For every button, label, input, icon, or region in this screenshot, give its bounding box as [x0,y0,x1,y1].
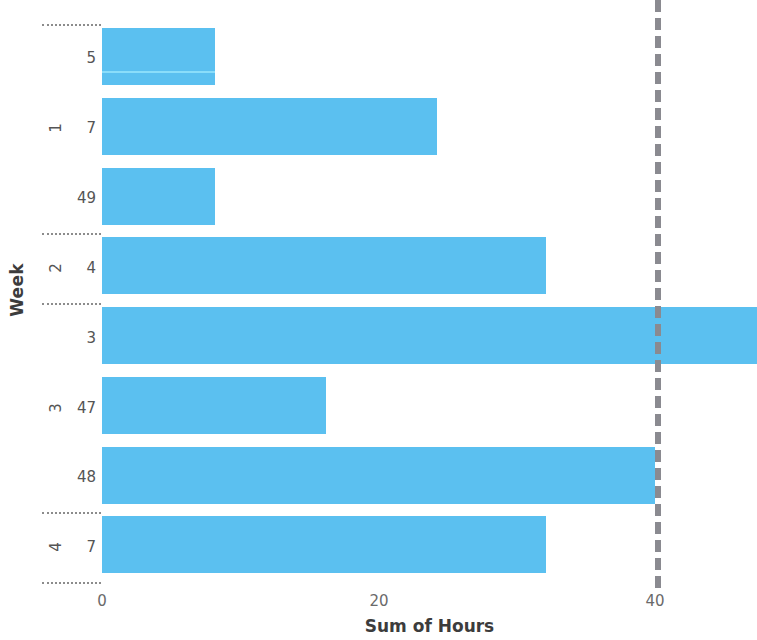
group-separator [42,512,101,514]
y-axis-title-text: Week [7,263,27,317]
week-tick-label-49: 49 [56,187,96,209]
x-tick-label-20: 20 [349,592,409,610]
y-axis-title: Week [2,0,32,580]
bar-week-49[interactable] [102,168,215,225]
bar-week-48[interactable] [102,447,655,504]
x-axis-title: Sum of Hours [102,616,757,636]
group-separator [42,233,101,235]
bar-chart: Week 1 2 3 4 5 7 49 4 3 47 48 7 0 [0,0,757,640]
week-tick-label-5: 5 [56,47,96,69]
week-tick-label-47: 47 [56,397,96,419]
bar-render-artifact [102,71,215,73]
bar-week-47[interactable] [102,377,326,434]
x-tick-label-40: 40 [625,592,685,610]
group-separator [42,582,101,584]
week-tick-label-48: 48 [56,466,96,488]
bar-week-5[interactable] [102,28,215,85]
week-tick-label-3: 3 [56,327,96,349]
plot-area: 0 20 40 [102,0,757,580]
bar-week-7-g4[interactable] [102,516,546,573]
week-tick-label-7a: 7 [56,117,96,139]
x-tick-label-0: 0 [72,592,132,610]
week-tick-label-7b: 7 [56,536,96,558]
week-tick-label-4: 4 [56,257,96,279]
reference-line-40 [655,0,661,588]
group-separator [42,303,101,305]
group-separator [42,24,101,26]
bar-week-7-g1[interactable] [102,98,437,155]
bar-week-4[interactable] [102,237,546,294]
